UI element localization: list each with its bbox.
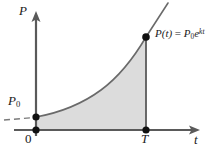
p0-dashed-guide [4, 118, 34, 120]
equation-lhs: P(t) [155, 27, 172, 39]
shaded-area-under-curve [36, 37, 146, 130]
equation-equals: = [175, 27, 181, 39]
exponential-growth-figure: P t P0 0 T P(t) = P0ekt [0, 0, 215, 156]
equation-rhs-base: P [184, 27, 191, 39]
curve-equation-label: P(t) = P0ekt [155, 28, 204, 41]
point-curve-at-T-dot [142, 33, 150, 41]
equation-rhs-exponent: kt [199, 27, 204, 36]
point-origin-dot [32, 126, 39, 133]
p0-label-subscript: 0 [16, 99, 20, 109]
p0-label: P0 [8, 94, 20, 108]
origin-label: 0 [25, 132, 32, 145]
graph-canvas [0, 0, 215, 156]
point-p0-dot [32, 113, 39, 120]
t-mark-label: T [141, 132, 148, 145]
p0-label-base: P [8, 93, 16, 108]
x-axis-label: t [194, 133, 198, 146]
y-axis-label: P [19, 4, 27, 17]
